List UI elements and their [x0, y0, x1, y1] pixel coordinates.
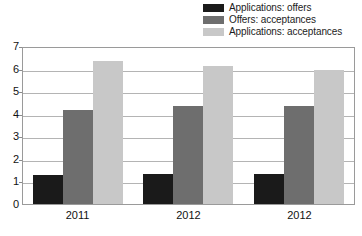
bar-offers-acceptances-2012-a — [173, 106, 203, 204]
x-tick-label-0: 2011 — [33, 209, 123, 222]
chart-legend: Applications: offers Offers: acceptances… — [203, 2, 362, 38]
bar-offers-acceptances-2011 — [63, 110, 93, 204]
y-axis-tick-marks — [0, 47, 23, 205]
bar-applications-acceptances-2012-b — [314, 70, 344, 204]
bar-group-2011 — [33, 48, 123, 204]
x-tick-label-1: 2012 — [144, 209, 234, 222]
legend-label-offers-acceptances: Offers: acceptances — [229, 14, 316, 25]
legend-label-applications-offers: Applications: offers — [229, 2, 311, 13]
legend-swatch-applications-acceptances — [203, 28, 224, 36]
legend-swatch-offers-acceptances — [203, 16, 224, 24]
bar-series-container — [23, 48, 354, 204]
x-axis-labels: 2011 2012 2012 — [22, 209, 355, 222]
bar-group-2012-a — [143, 48, 233, 204]
bar-group-2012-b — [254, 48, 344, 204]
bar-offers-acceptances-2012-b — [284, 106, 314, 204]
legend-swatch-applications-offers — [203, 4, 224, 12]
bar-applications-offers-2012-a — [143, 174, 173, 204]
x-tick-label-2: 2012 — [255, 209, 345, 222]
legend-label-applications-acceptances: Applications: acceptances — [229, 26, 342, 37]
plot-area — [22, 47, 355, 205]
legend-item-applications-offers: Applications: offers — [203, 2, 362, 13]
legend-item-applications-acceptances: Applications: acceptances — [203, 26, 362, 37]
bar-applications-acceptances-2012-a — [203, 66, 233, 204]
bar-applications-offers-2011 — [33, 175, 63, 204]
legend-item-offers-acceptances: Offers: acceptances — [203, 14, 362, 25]
bar-applications-offers-2012-b — [254, 174, 284, 204]
bar-chart-figure: Applications: offers Offers: acceptances… — [0, 0, 362, 236]
bar-applications-acceptances-2011 — [93, 61, 123, 204]
